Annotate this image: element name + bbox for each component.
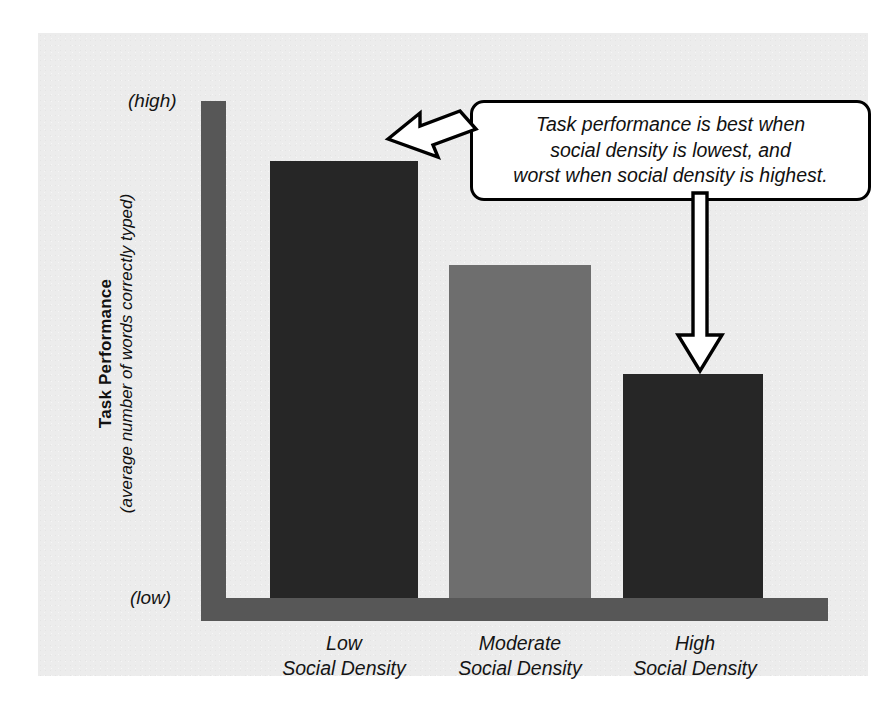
arrow-down-icon — [674, 193, 726, 373]
annotation-callout: Task performance is best when social den… — [470, 100, 871, 201]
x-tick-label-high-line1: High — [615, 631, 775, 656]
x-tick-label-moderate: Moderate Social Density — [440, 631, 600, 681]
x-axis-line — [201, 598, 828, 621]
x-tick-label-moderate-line2: Social Density — [440, 656, 600, 681]
x-tick-label-low-line1: Low — [264, 631, 424, 656]
bar-moderate-social-density — [449, 265, 591, 598]
chart-panel: Task Performance (average number of word… — [38, 33, 868, 676]
bar-low-social-density — [270, 161, 418, 598]
arrow-left-icon — [386, 101, 478, 175]
figure-container: Task Performance (average number of word… — [0, 0, 895, 708]
x-tick-label-high: High Social Density — [615, 631, 775, 681]
x-tick-label-low: Low Social Density — [264, 631, 424, 681]
bar-high-social-density — [623, 374, 763, 598]
annotation-callout-text: Task performance is best when social den… — [503, 112, 837, 188]
x-tick-label-low-line2: Social Density — [264, 656, 424, 681]
x-tick-label-high-line2: Social Density — [615, 656, 775, 681]
x-tick-label-moderate-line1: Moderate — [440, 631, 600, 656]
